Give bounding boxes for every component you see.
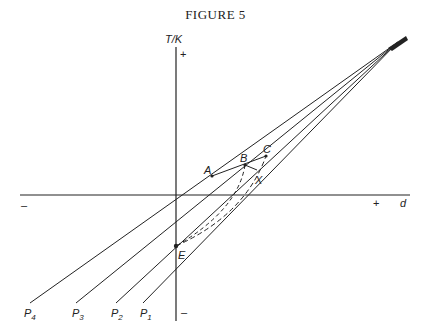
label-p4: P4: [24, 307, 36, 322]
x-axis-plus: +: [373, 197, 379, 209]
label-b: B: [240, 152, 247, 164]
convergence-tip: [388, 36, 408, 51]
line-p3: [76, 42, 398, 303]
label-p3: P3: [72, 307, 84, 322]
label-x: X: [254, 174, 263, 186]
dashed-e-c: [176, 156, 266, 246]
label-a: A: [203, 164, 211, 176]
y-axis-plus: +: [180, 48, 186, 60]
line-labels: P4 P3 P2 P1: [24, 307, 152, 322]
x-axis-label: d: [400, 197, 407, 209]
label-e: E: [178, 249, 186, 261]
label-p2: P2: [111, 307, 123, 322]
y-axis-label: T/K: [165, 33, 183, 45]
line-p1: [143, 42, 398, 303]
segment-a-c: [212, 156, 266, 176]
x-axis-minus: –: [21, 199, 28, 211]
diagram-canvas: T/K + – – + d P4 P3 P2 P1 A B C X E: [0, 0, 431, 335]
point-e: [174, 244, 178, 248]
label-c: C: [263, 143, 271, 155]
y-axis-minus: –: [181, 306, 188, 318]
label-p1: P1: [140, 307, 152, 322]
converging-lines: [30, 42, 398, 303]
segment-b-tick: [245, 165, 257, 170]
line-p4: [30, 42, 398, 303]
line-p2: [116, 42, 398, 303]
